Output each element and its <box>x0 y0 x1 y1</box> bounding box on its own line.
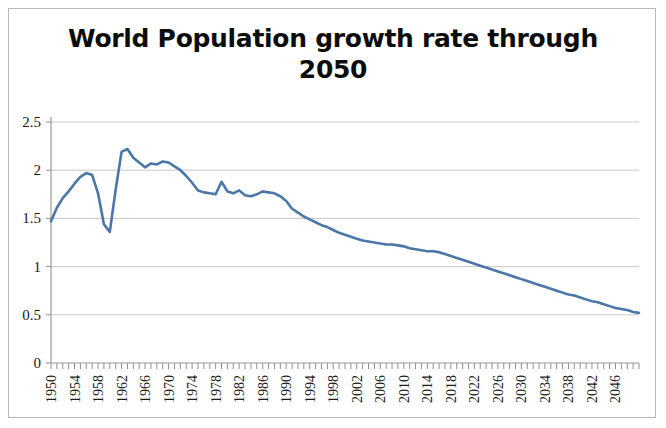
x-axis-tick-label: 1986 <box>256 375 271 403</box>
y-tick-marks-group <box>46 122 51 363</box>
plot-area: 00.511.522.5 195019541958196219661970197… <box>9 9 657 419</box>
chart-container: World Population growth rate through 205… <box>8 8 656 418</box>
x-axis-tick-label: 2030 <box>514 375 529 403</box>
y-axis-tick-label: 0 <box>34 355 42 371</box>
y-axis-tick-label: 0.5 <box>22 307 41 323</box>
x-axis-tick-label: 1970 <box>162 375 177 403</box>
x-tick-marks-group <box>51 363 639 369</box>
x-axis-tick-label: 2042 <box>585 375 600 403</box>
x-axis-tick-label: 1954 <box>68 375 83 403</box>
x-axis-tick-label: 1958 <box>91 375 106 403</box>
x-axis-tick-label: 1998 <box>326 375 341 403</box>
x-axis-tick-label: 2046 <box>608 375 623 403</box>
x-axis-tick-label: 1962 <box>115 375 130 403</box>
y-axis-labels-group: 00.511.522.5 <box>22 114 41 371</box>
x-axis-tick-label: 2022 <box>467 375 482 403</box>
gridlines-group <box>51 122 639 315</box>
x-axis-tick-label: 1982 <box>232 375 247 403</box>
x-axis-tick-label: 2002 <box>350 375 365 403</box>
x-axis-tick-label: 1978 <box>209 375 224 403</box>
data-series-line <box>51 149 639 313</box>
x-axis-labels-group: 1950195419581962196619701974197819821986… <box>44 375 623 403</box>
x-axis-tick-label: 2010 <box>397 375 412 403</box>
y-axis-tick-label: 1 <box>34 259 42 275</box>
x-axis-tick-label: 2026 <box>491 375 506 403</box>
x-axis-tick-label: 1990 <box>279 375 294 403</box>
y-axis-tick-label: 2 <box>34 162 42 178</box>
line-chart-svg: 00.511.522.5 195019541958196219661970197… <box>9 9 657 419</box>
x-axis-tick-label: 1994 <box>303 375 318 403</box>
x-axis-tick-label: 1974 <box>185 375 200 403</box>
x-axis-tick-label: 2006 <box>373 375 388 403</box>
x-axis-tick-label: 2014 <box>420 375 435 403</box>
x-axis-tick-label: 2038 <box>561 375 576 403</box>
x-axis-tick-label: 2018 <box>444 375 459 403</box>
y-axis-tick-label: 2.5 <box>22 114 41 130</box>
y-axis-tick-label: 1.5 <box>22 210 41 226</box>
x-axis-tick-label: 1966 <box>138 375 153 403</box>
x-axis-tick-label: 2034 <box>538 375 553 403</box>
x-axis-tick-label: 1950 <box>44 375 59 403</box>
